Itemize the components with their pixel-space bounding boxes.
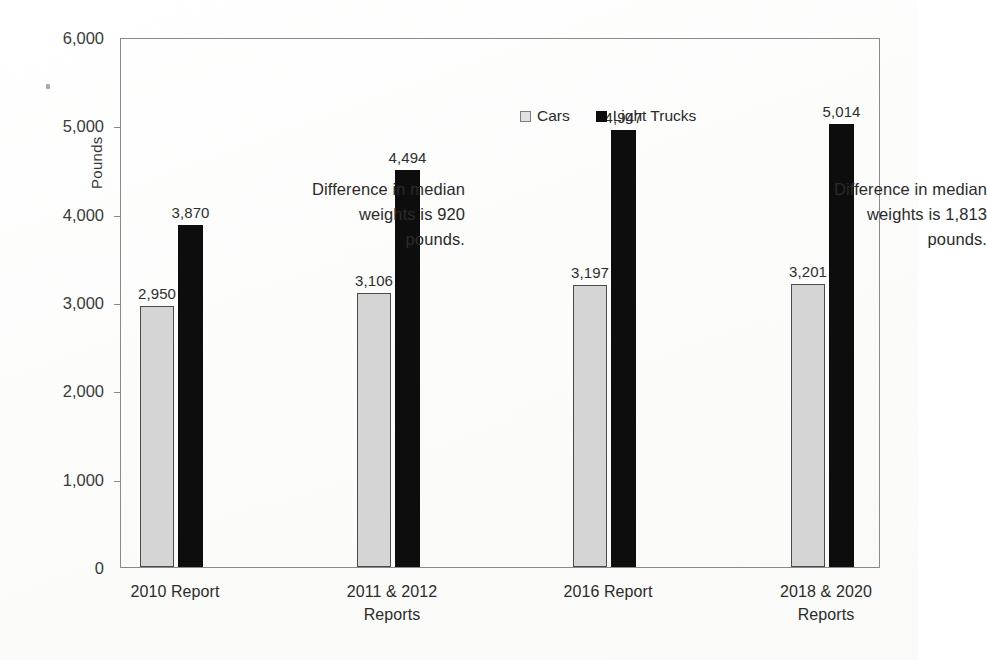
x-axis-label-group-1: 2011 & 2012 Reports bbox=[347, 580, 438, 626]
bar-cars-1[interactable] bbox=[357, 293, 391, 567]
x-axis-label-group-2: 2016 Report bbox=[563, 580, 652, 603]
y-tick-mark-2000 bbox=[114, 392, 121, 393]
legend-label-light-trucks: Light Trucks bbox=[613, 107, 697, 125]
bar-value-label-light-trucks-3: 5,014 bbox=[822, 103, 860, 120]
bar-value-label-cars-2: 3,197 bbox=[571, 264, 609, 281]
y-tick-mark-1000 bbox=[114, 481, 121, 482]
bar-light-trucks-2[interactable] bbox=[611, 130, 636, 567]
annotation-difference-2018: Difference in median weights is 1,813 po… bbox=[779, 177, 987, 251]
cars-swatch-icon bbox=[520, 111, 531, 122]
bar-value-label-cars-0: 2,950 bbox=[138, 285, 176, 302]
y-tick-label-3000: 3,000 bbox=[0, 294, 104, 313]
bar-light-trucks-0[interactable] bbox=[178, 225, 203, 567]
bar-cars-3[interactable] bbox=[791, 284, 825, 567]
bar-value-label-cars-1: 3,106 bbox=[355, 272, 393, 289]
y-tick-label-5000: 5,000 bbox=[0, 117, 104, 136]
bar-value-label-light-trucks-1: 4,494 bbox=[388, 149, 426, 166]
bar-value-label-light-trucks-0: 3,870 bbox=[171, 204, 209, 221]
y-tick-label-2000: 2,000 bbox=[0, 382, 104, 401]
annotation-difference-2010: Difference in median weights is 920 poun… bbox=[253, 177, 465, 251]
plot-area: Pounds 2,9503,8703,1064,4943,1974,9473,2… bbox=[120, 38, 880, 568]
x-axis-label-group-3: 2018 & 2020 Reports bbox=[780, 580, 872, 626]
y-axis-title: Pounds bbox=[88, 136, 105, 189]
light-trucks-swatch-icon bbox=[596, 111, 607, 122]
y-tick-mark-5000 bbox=[114, 127, 121, 128]
y-axis-tick-labels: 01,0002,0003,0004,0005,0006,000 bbox=[0, 0, 112, 660]
y-tick-mark-4000 bbox=[114, 216, 121, 217]
chart-legend: Cars Light Trucks bbox=[520, 107, 696, 125]
y-tick-label-1000: 1,000 bbox=[0, 470, 104, 489]
x-axis-label-group-0: 2010 Report bbox=[130, 580, 219, 603]
y-tick-label-0: 0 bbox=[0, 559, 104, 578]
legend-label-cars: Cars bbox=[537, 107, 570, 125]
y-tick-label-6000: 6,000 bbox=[0, 29, 104, 48]
bar-value-label-cars-3: 3,201 bbox=[789, 263, 827, 280]
bar-cars-2[interactable] bbox=[573, 285, 607, 567]
bar-cars-0[interactable] bbox=[140, 306, 174, 567]
y-tick-label-4000: 4,000 bbox=[0, 205, 104, 224]
legend-item-light-trucks[interactable]: Light Trucks bbox=[596, 107, 697, 125]
y-tick-mark-3000 bbox=[114, 304, 121, 305]
legend-item-cars[interactable]: Cars bbox=[520, 107, 570, 125]
